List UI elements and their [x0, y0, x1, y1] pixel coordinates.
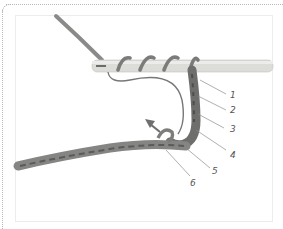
callout-4: 4	[230, 150, 236, 160]
foundation-chain	[18, 144, 186, 166]
yarn-tail	[56, 16, 102, 60]
callout-6: 6	[190, 178, 196, 188]
direction-arrow-icon	[145, 119, 160, 132]
callout-2: 2	[230, 105, 236, 115]
crochet-illustration: 1 2 3 4 5 6	[0, 0, 283, 229]
yarn-path-line	[108, 72, 183, 134]
callout-5: 5	[212, 166, 218, 176]
callout-1: 1	[230, 90, 236, 100]
callout-3: 3	[230, 124, 236, 134]
